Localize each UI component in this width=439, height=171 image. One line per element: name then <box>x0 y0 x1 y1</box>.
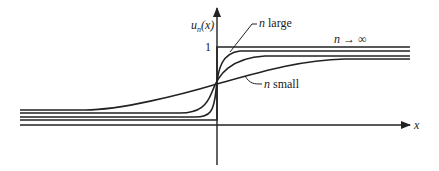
y-axis-label: un(x) <box>191 18 214 34</box>
y-tick-label-one: 1 <box>205 40 211 54</box>
leader-n-small <box>245 76 262 84</box>
sigmoid-convergence-diagram: un(x) 1 x n large n small n → ∞ <box>0 0 439 171</box>
annotation-n-infinity: n → ∞ <box>334 32 367 46</box>
curve-n-small <box>20 59 410 110</box>
x-axis-label: x <box>413 118 420 132</box>
annotation-n-large: n large <box>259 16 292 30</box>
annotation-n-small: n small <box>264 77 300 91</box>
